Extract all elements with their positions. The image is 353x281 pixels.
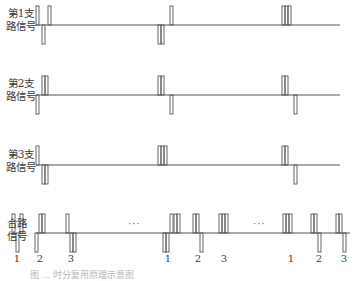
combined-label: 合路 信号 <box>4 217 30 243</box>
combined-pulse <box>225 214 228 233</box>
row3-label-line2: 路信号 <box>6 161 36 174</box>
figure-caption: 图 ... 时分复用原理示意图 <box>30 268 134 281</box>
combined-pulse <box>35 233 38 252</box>
combined-pulse <box>200 233 203 252</box>
ellipsis-2: ··· <box>253 218 266 229</box>
row2-pulse <box>294 95 297 114</box>
combined-label-line2: 信号 <box>4 230 30 243</box>
combined-pulse <box>66 214 69 233</box>
ellipsis-1: ··· <box>128 218 141 229</box>
row1-pulse <box>282 6 285 25</box>
row2-pulse <box>36 95 39 114</box>
combined-pulse <box>177 214 180 233</box>
slot-number: 2 <box>314 253 324 264</box>
slot-number: 3 <box>219 253 229 264</box>
row2-pulse <box>42 76 45 95</box>
row2-label-line2: 路信号 <box>6 90 36 103</box>
slot-number: 3 <box>339 253 349 264</box>
row3-pulse <box>282 146 285 165</box>
combined-label-line1: 合路 <box>4 217 30 230</box>
combined-pulse <box>42 214 45 233</box>
row3-label: 第3支 路信号 <box>6 148 36 174</box>
row2-label: 第2支 路信号 <box>6 77 36 103</box>
row3-label-line1: 第3支 <box>6 148 36 161</box>
combined-pulse <box>339 214 342 233</box>
slot-number: 1 <box>163 253 173 264</box>
row3-pulse <box>285 146 288 165</box>
combined-pulse <box>39 214 42 233</box>
slot-number: 3 <box>66 253 76 264</box>
row3-pulse <box>42 165 45 184</box>
row1-label-line2: 路信号 <box>6 20 36 33</box>
combined-pulse <box>343 233 346 252</box>
row3-pulse <box>294 165 297 184</box>
row1-pulse <box>285 6 288 25</box>
row2-pulse <box>170 95 173 114</box>
combined-pulse <box>283 214 286 233</box>
combined-pulse <box>166 233 169 252</box>
slot-number: 1 <box>286 253 296 264</box>
combined-pulse <box>318 233 321 252</box>
row1-pulse <box>161 25 164 44</box>
row3-pulse <box>164 146 167 165</box>
combined-pulse <box>311 214 314 233</box>
slot-number: 1 <box>12 253 22 264</box>
row2-pulse <box>161 76 164 95</box>
row2-pulse <box>285 76 288 95</box>
row1-pulse <box>288 6 291 25</box>
row3-pulse <box>45 165 48 184</box>
row1-label: 第1支 路信号 <box>6 7 36 33</box>
slot-number: 2 <box>193 253 203 264</box>
row1-pulse <box>42 25 45 44</box>
combined-pulse <box>196 214 199 233</box>
combined-pulse <box>170 214 173 233</box>
row2-pulse <box>282 76 285 95</box>
combined-pulse <box>286 214 289 233</box>
row2-pulse <box>45 76 48 95</box>
slot-number: 2 <box>35 253 45 264</box>
row2-label-line1: 第2支 <box>6 77 36 90</box>
combined-pulse <box>336 214 339 233</box>
row1-label-line1: 第1支 <box>6 7 36 20</box>
combined-pulse <box>73 233 76 252</box>
row1-pulse <box>36 6 39 25</box>
row1-pulse <box>170 6 173 25</box>
combined-pulse <box>314 214 317 233</box>
row3-pulse <box>36 146 39 165</box>
combined-pulse <box>289 214 292 233</box>
row1-pulse <box>48 6 51 25</box>
